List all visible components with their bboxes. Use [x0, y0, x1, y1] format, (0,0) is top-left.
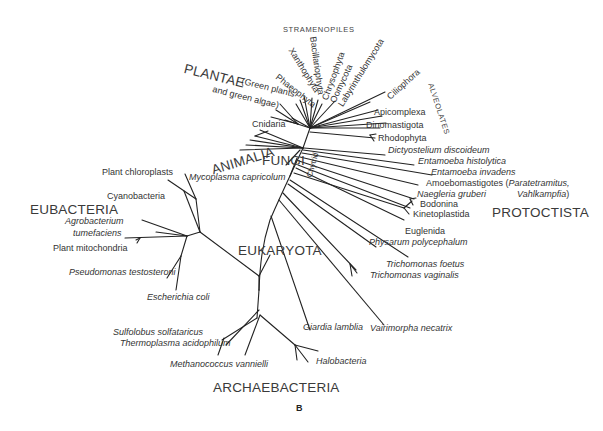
group-label-archaebacteria: ARCHAEBACTERIA	[213, 381, 340, 395]
paratetramitus-label: Paratetramitus,	[509, 178, 570, 188]
taxon-vahlkampfia: Vahlkampfia)	[517, 189, 569, 199]
vahlkampfia-close: )	[566, 189, 569, 199]
taxon-trichomonas-vaginalis: Trichomonas vaginalis	[370, 270, 459, 280]
taxon-entamoeba-histolytica: Entamoeba histolytica	[418, 156, 506, 166]
taxon-sulfolobus-solfataricus: Sulfolobus solfataricus	[113, 327, 203, 337]
group-label-stramenopiles: STRAMENOPILES	[283, 25, 355, 35]
taxon-physarum-polycephalum: Physarum polycephalum	[369, 237, 468, 247]
taxon-vairimorpha-necatrix: Vairimorpha necatrix	[370, 323, 452, 333]
group-label-eubacteria: EUBACTERIA	[30, 203, 118, 217]
taxon-cnidaria: Cnidaria	[252, 119, 286, 129]
vahlkampfia-label: Vahlkampfia	[517, 189, 566, 199]
taxon-tumefaciens: tumefaciens	[73, 228, 122, 238]
group-label-fungi: FUNGI	[262, 154, 305, 168]
taxon-mycoplasma-capricolum: Mycoplasma capricolum	[189, 172, 286, 182]
taxon-naegleria-gruberi: Naegleria gruberi	[417, 189, 486, 199]
taxon-entamoeba-invadens: Entamoeba invadens	[431, 167, 516, 177]
taxon-apicomplexa: Apicomplexa	[374, 107, 426, 117]
taxon-rhodophyta: Rhodophyta	[378, 133, 427, 143]
taxon-kinetoplastida: Kinetoplastida	[413, 209, 470, 219]
taxon-pseudomonas-testosteroni: Pseudomonas testosteroni	[69, 267, 176, 277]
phylogenetic-tree-figure: STRAMENOPILES ALVEOLATES PLANTAE (Green …	[0, 0, 603, 431]
taxon-bodonina: Bodonina	[420, 199, 458, 209]
taxon-trichomonas-foetus: Trichomonas foetus	[386, 259, 464, 269]
taxon-dinomastigota: Dinomastigota	[366, 120, 424, 130]
taxon-methanococcus-vannielli: Methanococcus vannielli	[170, 359, 268, 369]
taxon-giardia-lamblia: Giardia lamblia	[303, 322, 363, 332]
taxon-thermoplasma-acidophilum: Thermoplasma acidophilum	[120, 338, 231, 348]
taxon-halobacteria: Halobacteria	[316, 356, 367, 366]
amoebomastigotes-label: Amoebomastigotes (	[426, 178, 509, 188]
taxon-cyanobacteria: Cyanobacteria	[107, 191, 165, 201]
group-label-protoctista: PROTOCTISTA	[492, 206, 589, 220]
taxon-agrobacterium: Agrobacterium	[65, 216, 124, 226]
taxon-amoebomastigotes: Amoebomastigotes (Paratetramitus,	[426, 178, 570, 188]
group-label-eukaryota: EUKARYOTA	[238, 244, 322, 258]
taxon-dictyostelium-discoideum: Dictyostelium discoideum	[388, 145, 490, 155]
taxon-plant-chloroplasts: Plant chloroplasts	[102, 167, 173, 177]
taxon-escherichia-coli: Escherichia coli	[147, 292, 210, 302]
taxon-euglenida: Euglenida	[405, 226, 445, 236]
panel-label: B	[296, 403, 303, 413]
taxon-plant-mitochondria: Plant mitochondria	[53, 243, 128, 253]
